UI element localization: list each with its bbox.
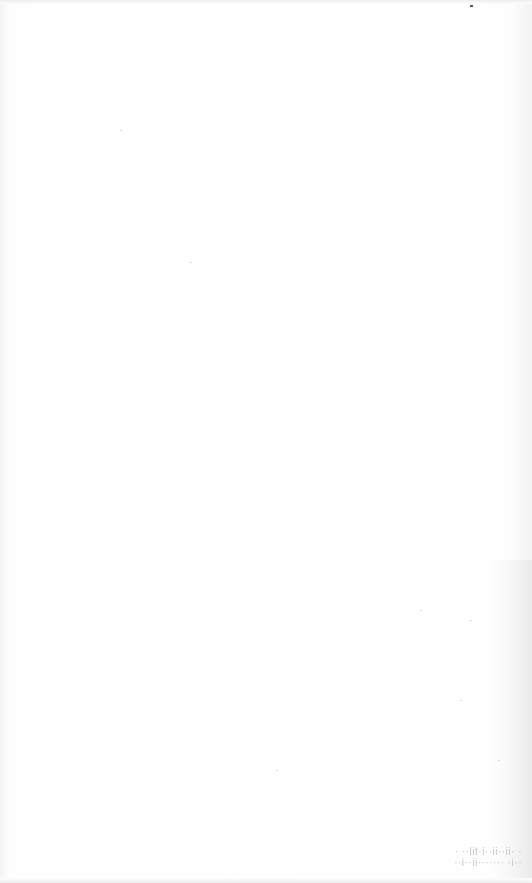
top-edge-shadow	[0, 0, 532, 4]
bottom-edge-shadow	[0, 878, 532, 883]
corner-speck	[470, 5, 473, 7]
right-edge-shading	[492, 560, 532, 880]
faint-footer-text: · ··lit·i··ii··ii· · ··i··ii······· ·i··	[454, 846, 522, 868]
faint-footer-line-2: ··i··ii······· ·i··	[454, 857, 522, 868]
blank-page: · ··lit·i··ii··ii· · ··i··ii······· ·i··	[0, 0, 532, 883]
faint-footer-line-1: · ··lit·i··ii··ii· ·	[454, 846, 522, 857]
